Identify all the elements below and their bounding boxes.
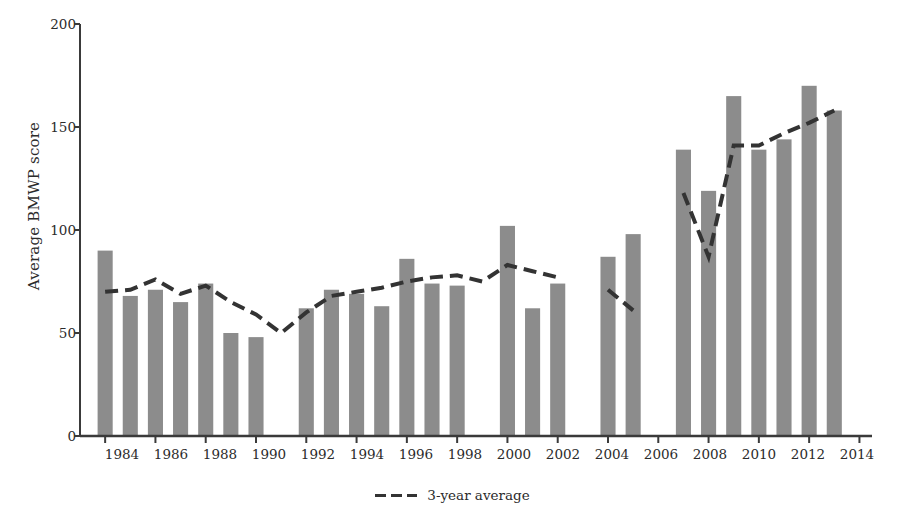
bar-2001 <box>525 308 540 436</box>
plot-area <box>0 0 904 526</box>
chart-legend: 3-year average <box>0 487 904 505</box>
bar-1988 <box>198 284 213 436</box>
bar-1985 <box>123 296 138 436</box>
bar-1994 <box>349 294 364 436</box>
bar-1992 <box>299 308 314 436</box>
bar-2005 <box>626 234 641 436</box>
bar-group <box>98 86 842 436</box>
bar-2002 <box>550 284 565 436</box>
bmwp-score-chart: Average BMWP score 200 150 100 50 0 1984… <box>0 0 904 526</box>
bar-1987 <box>173 302 188 436</box>
bar-1990 <box>248 337 263 436</box>
bar-2008 <box>701 191 716 436</box>
bar-1996 <box>399 259 414 436</box>
bar-2011 <box>776 139 791 436</box>
bar-1993 <box>324 290 339 436</box>
bar-2007 <box>676 150 691 436</box>
bar-2012 <box>802 86 817 436</box>
bar-2010 <box>751 150 766 436</box>
bar-1986 <box>148 290 163 436</box>
bar-1998 <box>450 286 465 436</box>
bar-1984 <box>98 251 113 436</box>
bar-1989 <box>223 333 238 436</box>
legend-label-3-year-average: 3-year average <box>427 487 529 503</box>
bar-2013 <box>827 111 842 436</box>
legend-dashed-line-icon <box>374 489 418 502</box>
bar-2004 <box>600 257 615 436</box>
bar-1995 <box>374 306 389 436</box>
bar-1997 <box>424 284 439 436</box>
bar-2000 <box>500 226 515 436</box>
